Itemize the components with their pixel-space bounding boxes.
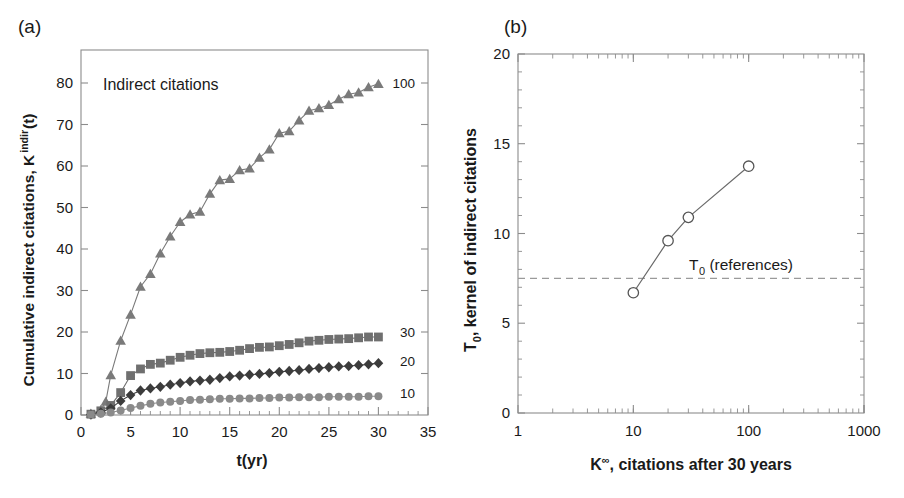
x-axis-title-main: K bbox=[590, 456, 602, 473]
panel-a-xlabel-svg: t(yr) bbox=[0, 0, 452, 498]
panel-b-xlabel-wrap: K∞, citations after 30 years bbox=[452, 0, 904, 498]
x-axis-title-b: K∞, citations after 30 years bbox=[590, 454, 792, 473]
panel-a-xlabel-wrap: t(yr) bbox=[0, 0, 452, 498]
figure-container: (a) bbox=[0, 0, 904, 498]
panel-b-xlabel-svg: K∞, citations after 30 years bbox=[452, 0, 904, 498]
x-axis-title-sup: ∞ bbox=[602, 454, 610, 466]
x-axis-title-tail: , citations after 30 years bbox=[610, 456, 792, 473]
panel-a: (a) bbox=[0, 0, 452, 498]
x-axis-title-a: t(yr) bbox=[236, 452, 267, 469]
panel-b: (b) bbox=[452, 0, 904, 498]
